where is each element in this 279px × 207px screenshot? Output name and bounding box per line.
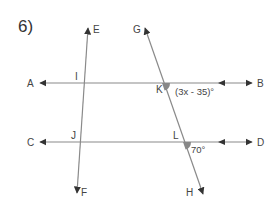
label-h: H	[186, 187, 193, 198]
label-e: E	[93, 24, 100, 35]
parallel-arrow-icon	[218, 139, 225, 145]
label-j: J	[71, 130, 76, 141]
label-b: B	[257, 78, 264, 89]
angle-label-k: (3x - 35)°	[175, 86, 214, 97]
label-f: F	[81, 187, 87, 198]
label-l: L	[173, 130, 179, 141]
parallel-arrow-icon	[218, 80, 225, 86]
angle-marker-k	[162, 83, 170, 91]
problem-number: 6)	[18, 17, 33, 36]
parallel-lines-diagram: 6) A B C D E F G H I J K L (3x - 35)° 70…	[0, 0, 279, 207]
line-ef	[77, 28, 88, 193]
label-g: G	[133, 24, 141, 35]
angle-marker-l	[183, 142, 191, 150]
label-i: I	[75, 71, 78, 82]
label-d: D	[257, 137, 264, 148]
label-k: K	[156, 84, 163, 95]
line-ab	[40, 80, 252, 86]
label-c: C	[27, 137, 34, 148]
label-a: A	[27, 78, 34, 89]
line-gh	[145, 28, 203, 194]
angle-label-l: 70°	[191, 144, 206, 155]
